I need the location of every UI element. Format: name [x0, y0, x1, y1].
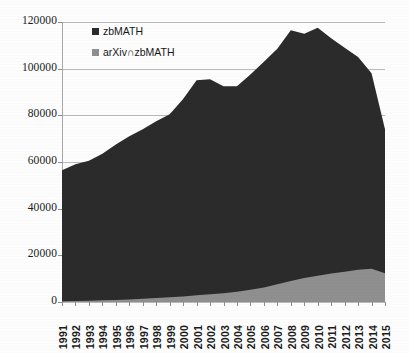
- x-tick-label: 2005: [245, 325, 256, 349]
- x-tick-label: 2006: [259, 325, 270, 349]
- x-tick-label: 2011: [326, 325, 337, 349]
- chart-legend: zbMATH arXiv∩zbMATH: [92, 26, 175, 68]
- legend-swatch-zbmath: [92, 28, 99, 35]
- x-tick-mark: [331, 302, 332, 306]
- x-tick-label: 1995: [111, 325, 122, 349]
- legend-item-zbmath: zbMATH: [92, 26, 175, 37]
- x-tick-label: 2007: [272, 325, 283, 349]
- y-tick-label: 120000: [0, 15, 57, 27]
- legend-swatch-arxiv-zbmath: [92, 49, 99, 56]
- x-tick-mark: [372, 302, 373, 306]
- x-tick-label: 2002: [205, 325, 216, 349]
- x-tick-label: 1999: [165, 325, 176, 349]
- x-tick-label: 1998: [151, 325, 162, 349]
- x-tick-label: 2001: [192, 325, 203, 349]
- x-tick-label: 2012: [340, 325, 351, 349]
- x-tick-mark: [183, 302, 184, 306]
- x-tick-mark: [385, 302, 386, 306]
- x-tick-mark: [129, 302, 130, 306]
- y-tick-label: 0: [0, 295, 57, 307]
- y-tick-label: 20000: [0, 248, 57, 260]
- x-tick-label: 1994: [97, 325, 108, 349]
- x-tick-mark: [156, 302, 157, 306]
- x-tick-mark: [358, 302, 359, 306]
- x-tick-label: 1993: [84, 325, 95, 349]
- x-tick-mark: [304, 302, 305, 306]
- area-zbmath: [62, 28, 385, 302]
- y-tick-label: 100000: [0, 62, 57, 74]
- x-tick-mark: [224, 302, 225, 306]
- x-tick-mark: [237, 302, 238, 306]
- x-tick-mark: [143, 302, 144, 306]
- x-tick-mark: [116, 302, 117, 306]
- x-tick-mark: [250, 302, 251, 306]
- x-tick-label: 2004: [232, 325, 243, 349]
- x-tick-mark: [89, 302, 90, 306]
- y-tick-label: 80000: [0, 108, 57, 120]
- x-tick-label: 1996: [124, 325, 135, 349]
- legend-item-arxiv-zbmath: arXiv∩zbMATH: [92, 47, 175, 58]
- x-tick-mark: [264, 302, 265, 306]
- x-tick-label: 2003: [219, 325, 230, 349]
- x-tick-label: 1992: [70, 325, 81, 349]
- x-tick-mark: [197, 302, 198, 306]
- y-tick-label: 60000: [0, 155, 57, 167]
- x-axis-tick-labels: 1991199219931994199519961997199819992000…: [62, 302, 385, 353]
- x-tick-mark: [170, 302, 171, 306]
- x-tick-mark: [75, 302, 76, 306]
- x-tick-label: 2000: [178, 325, 189, 349]
- x-tick-label: 2014: [367, 325, 378, 349]
- legend-label-arxiv-zbmath: arXiv∩zbMATH: [103, 47, 175, 58]
- x-tick-label: 2015: [380, 325, 391, 349]
- x-tick-label: 2008: [286, 325, 297, 349]
- x-tick-label: 1991: [57, 325, 68, 349]
- x-tick-label: 2009: [299, 325, 310, 349]
- x-tick-label: 1997: [138, 325, 149, 349]
- x-tick-mark: [62, 302, 63, 306]
- x-tick-mark: [102, 302, 103, 306]
- y-tick-label: 40000: [0, 202, 57, 214]
- x-tick-mark: [345, 302, 346, 306]
- x-tick-mark: [318, 302, 319, 306]
- x-tick-mark: [277, 302, 278, 306]
- x-tick-mark: [210, 302, 211, 306]
- x-tick-label: 2010: [313, 325, 324, 349]
- x-tick-mark: [291, 302, 292, 306]
- x-tick-label: 2013: [353, 325, 364, 349]
- area-chart: 020000400006000080000100000120000 199119…: [0, 0, 409, 353]
- legend-label-zbmath: zbMATH: [103, 26, 143, 37]
